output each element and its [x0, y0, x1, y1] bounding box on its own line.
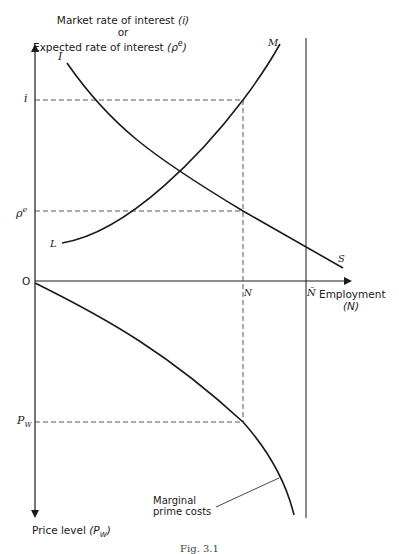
tick-label-rho-e: ρe	[16, 204, 27, 220]
tick-label-n: N	[244, 287, 252, 299]
annotation-pointer	[216, 478, 279, 507]
tick-label-rho-sup: e	[22, 205, 27, 214]
is-curve-label-end: S	[338, 253, 345, 265]
y-axis-title-symbol1: (i)	[178, 14, 189, 26]
lower-axis-title-text: Price level	[32, 524, 89, 536]
y-axis-title-symbol3: (ρ	[167, 41, 178, 53]
lm-curve-label-end: M	[268, 37, 278, 49]
y-axis-title-close: )	[183, 41, 187, 53]
tick-label-n-bar: N̄	[307, 287, 316, 299]
annotation-line2: prime costs	[153, 506, 211, 517]
origin-label: O	[22, 275, 30, 287]
y-axis-title-text3: Expected rate of interest	[33, 41, 167, 53]
annotation-line1: Marginal	[153, 495, 211, 506]
marginal-prime-costs-label: Marginal prime costs	[153, 495, 211, 517]
y-axis-title-line1: Market rate of interest (i)	[33, 14, 213, 26]
lower-axis-title-symbol: (P	[89, 524, 99, 536]
is-curve-label-start: I	[58, 51, 62, 63]
x-axis-title: Employment (N)	[319, 288, 386, 312]
y-axis-title: Market rate of interest (i) or	[33, 14, 213, 38]
x-axis-title-line1: Employment	[319, 288, 386, 300]
x-axis-title-line2: (N)	[343, 300, 386, 312]
y-axis-title-text1: Market rate of interest	[57, 14, 178, 26]
figure-caption: Fig. 3.1	[0, 543, 399, 554]
tick-label-pw: PW	[17, 415, 32, 431]
is-curve	[67, 63, 343, 268]
lower-axis-title: Price level (PW)	[32, 524, 111, 541]
tick-label-pw-sub: W	[24, 421, 31, 429]
lower-axis-title-sub: W	[100, 531, 107, 539]
marginal-prime-costs-curve	[35, 283, 294, 515]
lm-curve-label-start: L	[50, 238, 57, 250]
y-axis-title-line2: or	[33, 26, 213, 38]
y-axis-title-line3: Expected rate of interest (ρe)	[33, 38, 187, 53]
tick-label-i: i	[24, 93, 28, 105]
lower-axis-title-close: )	[107, 524, 111, 536]
